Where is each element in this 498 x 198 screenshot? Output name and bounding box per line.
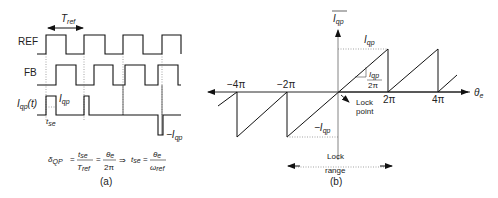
svg-text:θe: θe — [106, 150, 114, 159]
svg-text:=: = — [96, 155, 101, 164]
lock-range-label-1: Lock — [327, 152, 345, 161]
ref-waveform — [37, 35, 181, 54]
sawtooth-curve — [218, 49, 457, 137]
caption-a: (a) — [100, 176, 112, 187]
edge-guides — [46, 54, 162, 120]
fb-waveform — [37, 65, 181, 85]
fb-label: FB — [24, 67, 37, 78]
slope-den: 2π — [368, 81, 378, 90]
svg-text:δQP: δQP — [48, 155, 63, 166]
tick-neg2pi: −2π — [277, 79, 295, 90]
svg-text:=: = — [143, 155, 148, 164]
panel-b: Iqp θe Iqp 2π −4π −2π 2π 4π Iqp −Iqp Loc… — [208, 11, 483, 187]
ref-label: REF — [18, 36, 38, 47]
panel-a: Tref REF FB Iqp(t) Iqp tse −Iqp δQP = ts… — [17, 13, 183, 187]
tref-label: Tref — [61, 13, 76, 25]
svg-text:2π: 2π — [104, 163, 114, 172]
svg-text:tse: tse — [78, 150, 88, 159]
slope-num: Iqp — [369, 70, 379, 80]
bottom-label: −Iqp — [314, 122, 331, 135]
tse-label: tse — [46, 117, 56, 127]
svg-text:=: = — [70, 155, 75, 164]
equation: δQP = tse Tref = θe 2π ⇒ tse = θe ωref — [48, 150, 166, 172]
tick-neg4pi: −4π — [227, 79, 245, 90]
tick-2pi: 2π — [383, 94, 396, 105]
x-axis-label: θe — [474, 87, 483, 99]
top-label: Iqp — [364, 34, 375, 47]
neg-pulse-label: −Iqp — [166, 129, 183, 142]
svg-text:⇒: ⇒ — [119, 156, 126, 165]
phase-detector-diagram: Tref REF FB Iqp(t) Iqp tse −Iqp δQP = ts… — [0, 0, 498, 198]
svg-text:tse: tse — [131, 155, 141, 164]
lock-point-label-2: point — [356, 107, 374, 116]
caption-b: (b) — [330, 176, 342, 187]
tick-4pi: 4π — [432, 94, 445, 105]
lock-point-label-1: Lock — [356, 98, 374, 107]
iqp-label: Iqp(t) — [17, 98, 37, 111]
lock-range-label-2: range — [325, 166, 346, 175]
pulse-label: Iqp — [59, 93, 70, 106]
svg-text:Tref: Tref — [77, 163, 91, 172]
y-axis-label: Iqp — [333, 13, 344, 26]
svg-text:θe: θe — [153, 150, 161, 159]
lock-point-arrow — [341, 95, 349, 102]
svg-text:ωref: ωref — [150, 163, 165, 172]
